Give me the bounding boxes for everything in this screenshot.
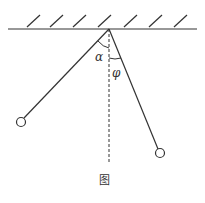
angle-alpha-arc xyxy=(98,41,109,48)
figure-caption: 图 xyxy=(96,171,112,187)
phi-label: φ xyxy=(112,66,121,80)
right-bob xyxy=(156,149,165,158)
angle-phi-arc xyxy=(109,58,121,59)
left-string xyxy=(24,29,109,118)
alpha-label: α xyxy=(95,50,103,64)
left-bob xyxy=(17,118,26,127)
right-string xyxy=(109,29,158,149)
ceiling xyxy=(8,15,197,29)
